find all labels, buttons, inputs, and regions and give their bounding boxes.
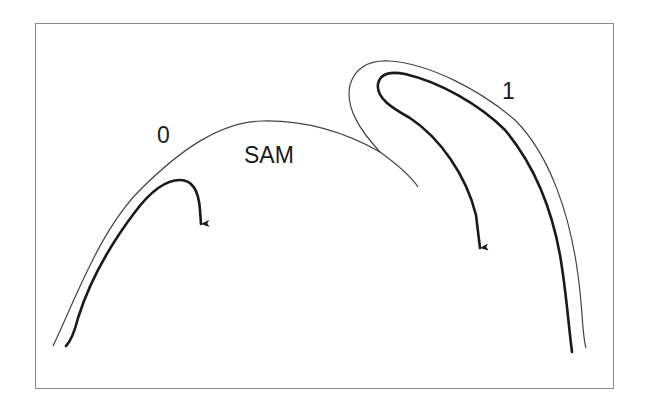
label-sam: SAM (244, 142, 294, 168)
primordium-1-inner-line (378, 73, 572, 352)
label-primordium-0: 0 (157, 122, 170, 148)
primordium-0-inner-line (66, 180, 201, 346)
meristem-diagram: 0 SAM 1 (0, 0, 649, 406)
outer-epidermis-left-dome (53, 121, 380, 346)
primordium-1-outer-line (349, 61, 586, 348)
dome-notch-line (380, 152, 418, 187)
label-primordium-1: 1 (502, 78, 515, 104)
